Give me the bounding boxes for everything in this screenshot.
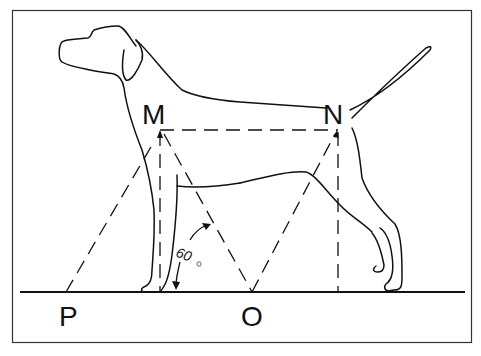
label-n: N: [323, 99, 343, 130]
label-m: M: [142, 99, 165, 130]
label-p: P: [59, 301, 78, 332]
label-o: O: [241, 301, 263, 332]
dog-gait-diagram: 60 M N P O: [0, 0, 481, 356]
